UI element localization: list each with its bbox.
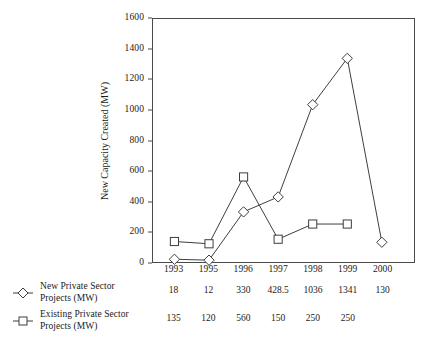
legend-label-line1: Existing Private Sector [40,309,148,321]
legend-label-line2: Projects (MW) [40,321,148,333]
diamond-marker-icon [169,254,179,264]
legend-row: Existing Private SectorProjects (MW)1351… [0,309,434,335]
diamond-marker-icon [238,207,248,217]
y-axis-tick-label: 600 [0,166,144,176]
legend-row: New Private SectorProjects (MW)181233042… [0,281,434,307]
square-marker-icon [12,314,34,328]
series-layer [153,19,414,262]
y-axis-tick-label: 1600 [0,13,144,23]
x-axis-tick-label: 1996 [234,265,253,275]
y-axis-tick-mark [148,171,152,172]
square-marker-icon [240,173,248,181]
x-axis-tick-label: 1993 [164,265,183,275]
diamond-marker-icon [273,192,283,202]
x-axis-tick-label: 1995 [199,265,218,275]
x-axis-tick-label: 1998 [303,265,322,275]
square-marker-icon [205,240,213,248]
y-axis-tick-label: 0 [0,258,144,268]
y-axis-tick-label: 1200 [0,75,144,85]
square-marker-icon [170,237,178,245]
x-axis-tick-label: 2000 [373,265,392,275]
y-axis-tick-label: 200 [0,228,144,238]
data-value-cell: 12 [204,286,214,296]
data-value-cell: 130 [375,286,389,296]
plot-area [152,18,415,263]
y-axis-tick-label: 800 [0,136,144,146]
y-axis-tick-mark [148,79,152,80]
data-value-cell: 330 [236,286,250,296]
x-axis-tick-label: 1999 [338,265,357,275]
series-line-2 [174,177,347,244]
legend-label: New Private SectorProjects (MW) [40,281,148,304]
y-axis-tick-mark [148,201,152,202]
data-value-cell: 150 [271,314,285,324]
legend-table: New Private SectorProjects (MW)181233042… [0,281,434,343]
data-value-cell: 120 [201,314,215,324]
chart-figure: New Capacity Created (MW) 02004006008001… [0,0,434,353]
square-marker-icon [274,235,282,243]
data-value-cell: 135 [166,314,180,324]
square-marker-icon [309,220,317,228]
series-line-1 [174,58,381,260]
y-axis-tick-mark [148,109,152,110]
y-axis-tick-label: 400 [0,197,144,207]
data-value-cell: 1341 [338,286,357,296]
legend-label-line2: Projects (MW) [40,293,148,305]
y-axis-tick-label: 1000 [0,105,144,115]
y-axis-tick-mark [148,263,152,264]
y-axis-tick-mark [148,232,152,233]
legend-label: Existing Private SectorProjects (MW) [40,309,148,332]
data-value-cell: 560 [236,314,250,324]
data-value-cell: 1036 [303,286,322,296]
x-axis-tick-label: 1997 [268,265,287,275]
diamond-marker-icon [12,286,34,300]
diamond-marker-icon [342,53,352,63]
y-axis-tick-mark [148,48,152,49]
y-axis-tick-mark [148,18,152,19]
legend-label-line1: New Private Sector [40,281,148,293]
diamond-marker-icon [308,99,318,109]
diamond-marker-icon [377,237,387,247]
data-value-cell: 428.5 [267,286,288,296]
data-value-cell: 18 [169,286,179,296]
y-axis-tick-mark [148,140,152,141]
data-value-cell: 250 [306,314,320,324]
data-value-cell: 250 [341,314,355,324]
square-marker-icon [343,220,351,228]
y-axis-tick-label: 1400 [0,44,144,54]
